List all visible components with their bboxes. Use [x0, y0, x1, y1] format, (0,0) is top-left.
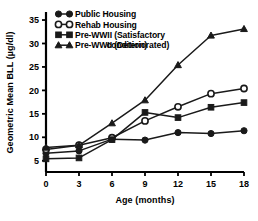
legend-marker-open-circle: [66, 21, 72, 27]
data-point: [43, 156, 49, 162]
legend-label: Pre-WWII (Deteriorated): [75, 40, 169, 50]
legend-label: Pre-WWII (Satisfactory: [75, 30, 165, 40]
data-point: [142, 137, 148, 143]
x-tick-label: 0: [43, 179, 48, 189]
y-tick-label: 35: [29, 15, 39, 25]
x-tick-label: 3: [76, 179, 81, 189]
legend-marker-filled-circle: [66, 11, 72, 17]
y-axis-title: Geometric Mean BLL (µg/dl): [5, 31, 15, 153]
data-point: [175, 130, 181, 136]
y-tick-label: 25: [29, 62, 39, 72]
legend-label: Rehab Housing: [75, 20, 137, 30]
y-tick-label: 5: [34, 156, 39, 166]
line-chart: 51015202530350369121518Age (months)Geome…: [0, 0, 258, 221]
data-point: [175, 104, 181, 110]
data-point: [241, 128, 247, 134]
x-tick-label: 6: [109, 179, 114, 189]
data-point: [208, 104, 214, 110]
data-point: [109, 137, 115, 143]
y-tick-label: 15: [29, 109, 39, 119]
chart-figure: 51015202530350369121518Age (months)Geome…: [0, 0, 258, 221]
data-point: [175, 115, 181, 121]
y-tick-label: 10: [29, 132, 39, 142]
data-point: [208, 130, 214, 136]
data-point: [76, 155, 82, 161]
y-tick-label: 30: [29, 39, 39, 49]
legend-marker-filled-square: [56, 32, 62, 38]
data-point: [142, 110, 148, 116]
data-point: [142, 118, 148, 124]
y-tick-label: 20: [29, 86, 39, 96]
legend-marker-open-circle: [55, 21, 61, 27]
data-point: [208, 91, 214, 97]
legend-label: Public Housing: [75, 9, 136, 19]
legend-marker-filled-circle: [55, 11, 61, 17]
data-point: [241, 85, 247, 91]
x-tick-label: 9: [142, 179, 147, 189]
data-point: [241, 100, 247, 106]
data-point: [241, 25, 248, 31]
legend-marker-filled-square: [67, 32, 73, 38]
x-tick-label: 18: [239, 179, 249, 189]
x-axis-title: Age (months): [115, 195, 174, 205]
data-point: [109, 120, 116, 126]
x-tick-label: 12: [173, 179, 183, 189]
x-tick-label: 15: [206, 179, 216, 189]
